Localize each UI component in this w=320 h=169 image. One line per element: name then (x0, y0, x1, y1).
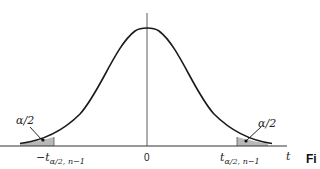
left-crit-sub: α/2, n−1 (50, 157, 85, 166)
x-axis-label: t (286, 150, 290, 163)
zero-tick-label: 0 (144, 152, 150, 163)
left-alpha-pointer (30, 127, 42, 140)
right-alpha-dot (244, 139, 247, 142)
left-alpha-label: α/2 (16, 114, 34, 127)
left-alpha-dot (41, 138, 44, 141)
figure-caption-fragment: Fi (306, 152, 317, 166)
left-crit-main: −t (36, 151, 50, 164)
density-curve (20, 28, 272, 144)
left-tail-shade (20, 137, 54, 146)
right-critical-value: tα/2, n−1 (220, 151, 260, 166)
left-critical-value: −tα/2, n−1 (36, 151, 85, 166)
t-distribution-chart (0, 0, 320, 169)
right-crit-sub: α/2, n−1 (224, 157, 259, 166)
right-alpha-label: α/2 (258, 117, 276, 130)
